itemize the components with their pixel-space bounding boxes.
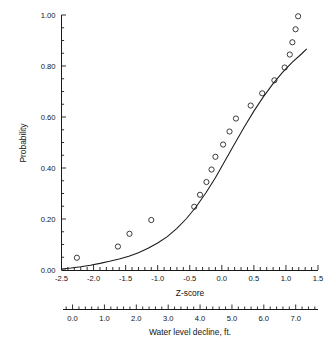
data-point-marker xyxy=(197,192,202,197)
data-point-marker xyxy=(260,91,265,96)
data-point-marker xyxy=(209,167,214,172)
secondary-x-tick-label: 5.0 xyxy=(227,314,238,323)
secondary-x-axis-title: Water level decline, ft. xyxy=(149,327,231,337)
data-point-marker xyxy=(213,154,218,159)
data-point-marker xyxy=(204,179,209,184)
data-point-marker xyxy=(220,142,225,147)
x-axis-zscore: -2.5-2.0-1.5-1.0-0.50.00.51.01.5 Z-score xyxy=(55,265,323,298)
y-axis-ticks xyxy=(62,15,67,270)
data-point-marker xyxy=(74,255,79,260)
x-axis-ticks xyxy=(62,265,319,270)
secondary-x-axis-tick-labels: 0.01.02.03.04.05.06.07.0 xyxy=(67,314,301,323)
secondary-x-tick-label: 1.0 xyxy=(99,314,110,323)
x-tick-label: 1.0 xyxy=(281,274,292,283)
data-point-marker xyxy=(293,27,298,32)
data-point-marker xyxy=(115,244,120,249)
fitted-curve xyxy=(62,49,307,269)
y-axis-title: Probability xyxy=(18,123,28,163)
secondary-x-tick-label: 3.0 xyxy=(163,314,174,323)
x-tick-label: -2.5 xyxy=(55,274,68,283)
data-point-markers xyxy=(74,14,300,261)
x-tick-label: 1.5 xyxy=(313,274,324,283)
y-axis: 0.000.200.400.600.801.00 Probability xyxy=(18,11,66,275)
secondary-x-tick-label: 6.0 xyxy=(259,314,270,323)
y-tick-label: 0.60 xyxy=(41,113,56,122)
data-point-marker xyxy=(287,52,292,57)
secondary-x-tick-label: 7.0 xyxy=(290,314,301,323)
y-tick-label: 0.40 xyxy=(41,164,56,173)
x-axis-water-level-decline: 0.01.02.03.04.05.06.07.0 Water level dec… xyxy=(63,305,318,338)
y-tick-label: 0.20 xyxy=(41,215,56,224)
secondary-x-tick-label: 2.0 xyxy=(131,314,142,323)
data-point-marker xyxy=(248,103,253,108)
data-point-marker xyxy=(290,40,295,45)
data-point-marker xyxy=(296,14,301,19)
y-tick-label: 0.80 xyxy=(41,62,56,71)
x-tick-label: -1.0 xyxy=(151,274,164,283)
data-point-marker xyxy=(227,129,232,134)
data-point-marker xyxy=(233,116,238,121)
y-axis-tick-labels: 0.000.200.400.600.801.00 xyxy=(41,11,56,275)
x-tick-label: -2.0 xyxy=(87,274,100,283)
y-tick-label: 1.00 xyxy=(41,11,56,20)
x-tick-label: -1.5 xyxy=(119,274,132,283)
x-axis-tick-labels: -2.5-2.0-1.5-1.0-0.50.00.51.01.5 xyxy=(55,274,323,283)
probability-vs-zscore-chart: 0.000.200.400.600.801.00 Probability -2.… xyxy=(0,0,332,347)
secondary-x-tick-label: 4.0 xyxy=(195,314,206,323)
x-axis-title: Z-score xyxy=(176,288,205,298)
data-point-marker xyxy=(127,231,132,236)
y-tick-label: 0.00 xyxy=(41,266,56,275)
fitted-curve-path xyxy=(62,49,307,269)
x-tick-label: 0.0 xyxy=(217,274,228,283)
x-tick-label: 0.5 xyxy=(249,274,260,283)
chart-canvas: 0.000.200.400.600.801.00 Probability -2.… xyxy=(0,0,332,347)
data-point-marker xyxy=(149,217,154,222)
secondary-x-axis-ticks xyxy=(66,305,315,310)
secondary-x-tick-label: 0.0 xyxy=(67,314,78,323)
x-tick-label: -0.5 xyxy=(183,274,196,283)
